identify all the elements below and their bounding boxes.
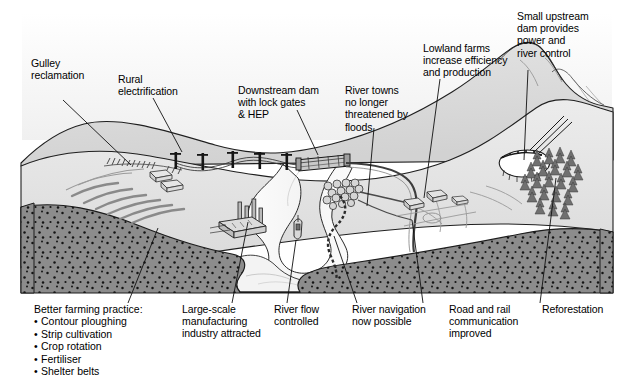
label-downstream-dam: Downstream dam with lock gates & HEP <box>238 84 340 121</box>
label-large-scale-manufacturing: Large-scale manufacturing industry attra… <box>182 303 282 340</box>
list-item: Contour ploughing <box>34 315 184 327</box>
label-river-flow-controlled: River flow controlled <box>274 303 336 327</box>
list-item: Crop rotation <box>34 340 184 352</box>
diagram-canvas: Gulley reclamation Rural electrification… <box>0 0 634 384</box>
farming-practice-heading: Better farming practice: <box>34 303 184 315</box>
label-small-upstream-dam: Small upstream dam provides power and ri… <box>517 10 621 59</box>
label-reforestation: Reforestation <box>542 303 626 315</box>
label-river-towns: River towns no longer threatened by floo… <box>345 84 431 133</box>
list-item: Strip cultivation <box>34 328 184 340</box>
list-item: Fertiliser <box>34 353 184 365</box>
label-lowland-farms: Lowland farms increase efficiency and pr… <box>423 42 529 79</box>
label-gulley-reclamation: Gulley reclamation <box>31 57 105 81</box>
farming-practice-list: Contour ploughing Strip cultivation Crop… <box>34 315 184 377</box>
label-better-farming-practice: Better farming practice: Contour ploughi… <box>34 303 184 377</box>
label-rural-electrification: Rural electrification <box>118 73 208 97</box>
label-road-and-rail: Road and rail communication improved <box>449 303 531 340</box>
label-river-navigation: River navigation now possible <box>352 303 444 327</box>
list-item: Shelter belts <box>34 365 184 377</box>
